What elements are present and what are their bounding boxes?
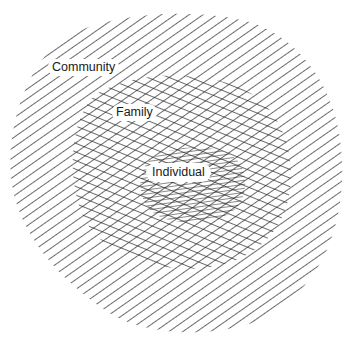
individual-label: Individual: [146, 163, 211, 182]
community-label: Community: [48, 59, 119, 76]
family-label: Family: [112, 104, 157, 121]
